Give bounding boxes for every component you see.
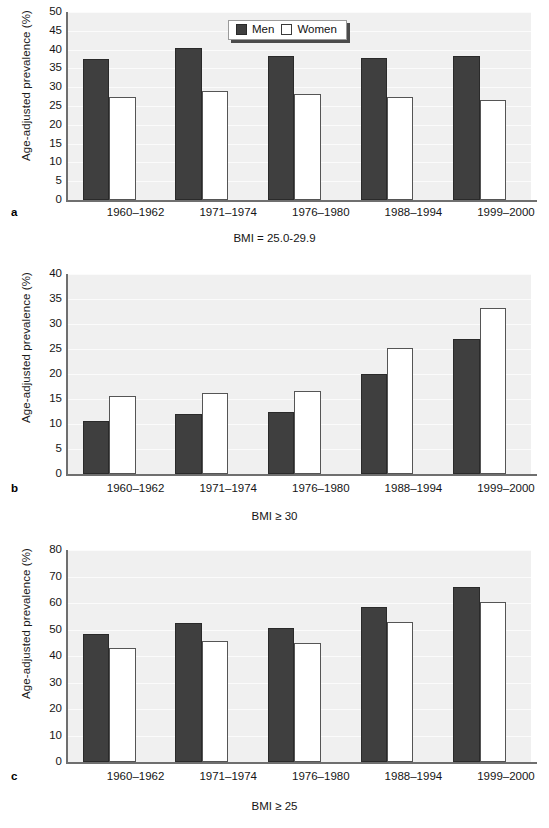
y-tick-label: 45 bbox=[49, 25, 62, 37]
legend-label-women: Women bbox=[297, 24, 336, 36]
gridline bbox=[68, 299, 531, 300]
y-tick-label: 30 bbox=[49, 677, 62, 689]
bar-women bbox=[202, 641, 228, 762]
bar-men bbox=[175, 414, 201, 475]
bar-women bbox=[480, 308, 506, 475]
bar-women bbox=[202, 393, 228, 475]
bar-men bbox=[83, 59, 109, 200]
y-tick-label: 40 bbox=[49, 44, 62, 56]
x-axis-line-b bbox=[66, 474, 537, 476]
x-tick-label: 1960–1962 bbox=[107, 770, 165, 782]
panel-letter-a: a bbox=[11, 206, 17, 218]
plot-area-a bbox=[68, 12, 531, 200]
bar-men bbox=[361, 374, 387, 474]
x-tick-label: 1971–1974 bbox=[199, 482, 257, 494]
x-axis-line-c bbox=[66, 762, 537, 764]
y-tick-label: 80 bbox=[49, 544, 62, 556]
plot-area-b bbox=[68, 274, 531, 474]
y-tick-label: 5 bbox=[56, 443, 62, 455]
bar-men bbox=[268, 56, 294, 200]
legend-swatch-women-icon bbox=[281, 24, 292, 35]
gridline bbox=[68, 50, 531, 51]
panel-letter-c: c bbox=[11, 770, 17, 782]
bar-men bbox=[175, 623, 201, 762]
panel-caption-c: BMI ≥ 25 bbox=[0, 800, 549, 812]
bar-men bbox=[83, 634, 109, 762]
gridline bbox=[68, 550, 531, 551]
y-tick-label: 50 bbox=[49, 6, 62, 18]
x-tick-label: 1999–2000 bbox=[477, 206, 535, 218]
x-tick-label: 1976–1980 bbox=[292, 770, 350, 782]
bar-women bbox=[109, 396, 135, 475]
legend-item-men: Men bbox=[236, 24, 274, 36]
y-tick-label: 60 bbox=[49, 597, 62, 609]
x-tick-label: 1988–1994 bbox=[385, 770, 443, 782]
y-tick-label: 0 bbox=[56, 194, 62, 206]
y-tick-labels-b: 0510152025303540 bbox=[22, 274, 62, 474]
bar-women bbox=[294, 643, 320, 763]
bar-women bbox=[387, 97, 413, 200]
x-tick-label: 1976–1980 bbox=[292, 482, 350, 494]
y-tick-label: 40 bbox=[49, 650, 62, 662]
bar-men bbox=[361, 607, 387, 762]
y-tick-label: 10 bbox=[49, 730, 62, 742]
figure-page: Age-adjusted prevalence (%) 051015202530… bbox=[0, 0, 549, 828]
y-tick-label: 0 bbox=[56, 468, 62, 480]
chart-panel-a: Age-adjusted prevalence (%) 051015202530… bbox=[0, 0, 549, 256]
bar-men bbox=[361, 58, 387, 201]
y-tick-label: 30 bbox=[49, 81, 62, 93]
y-tick-label: 35 bbox=[49, 293, 62, 305]
y-tick-label: 10 bbox=[49, 157, 62, 169]
bar-men bbox=[453, 339, 479, 475]
y-tick-label: 50 bbox=[49, 624, 62, 636]
gridline bbox=[68, 577, 531, 578]
y-tick-labels-c: 01020304050607080 bbox=[22, 550, 62, 762]
legend-swatch-men-icon bbox=[236, 24, 247, 35]
panel-caption-b: BMI ≥ 30 bbox=[0, 510, 549, 522]
bar-men bbox=[268, 628, 294, 762]
y-tick-label: 70 bbox=[49, 571, 62, 583]
bar-women bbox=[202, 91, 228, 200]
y-tick-label: 5 bbox=[56, 175, 62, 187]
bar-men bbox=[268, 412, 294, 475]
bar-men bbox=[453, 56, 479, 200]
panel-caption-a: BMI = 25.0-29.9 bbox=[0, 232, 549, 244]
bar-men bbox=[83, 421, 109, 475]
bar-women bbox=[480, 602, 506, 762]
gridline bbox=[68, 324, 531, 325]
y-tick-label: 40 bbox=[49, 268, 62, 280]
y-tick-label: 30 bbox=[49, 318, 62, 330]
legend-item-women: Women bbox=[281, 24, 336, 36]
plot-area-c bbox=[68, 550, 531, 762]
y-tick-label: 0 bbox=[56, 756, 62, 768]
x-axis-line-a bbox=[66, 200, 537, 202]
bar-women bbox=[387, 622, 413, 762]
x-tick-label: 1988–1994 bbox=[385, 482, 443, 494]
y-tick-label: 15 bbox=[49, 138, 62, 150]
y-tick-label: 25 bbox=[49, 343, 62, 355]
x-tick-label: 1971–1974 bbox=[199, 770, 257, 782]
chart-panel-b: Age-adjusted prevalence (%) 051015202530… bbox=[0, 258, 549, 534]
x-tick-label: 1971–1974 bbox=[199, 206, 257, 218]
x-tick-label: 1960–1962 bbox=[107, 482, 165, 494]
bar-women bbox=[387, 348, 413, 474]
y-tick-label: 20 bbox=[49, 703, 62, 715]
y-tick-label: 10 bbox=[49, 418, 62, 430]
panel-letter-b: b bbox=[11, 482, 18, 494]
bar-women bbox=[109, 97, 135, 200]
x-tick-label: 1999–2000 bbox=[477, 770, 535, 782]
y-tick-label: 35 bbox=[49, 63, 62, 75]
x-tick-label: 1960–1962 bbox=[107, 206, 165, 218]
y-tick-labels-a: 05101520253035404550 bbox=[22, 12, 62, 200]
bar-women bbox=[109, 648, 135, 762]
gridline bbox=[68, 12, 531, 13]
bar-men bbox=[453, 587, 479, 762]
chart-panel-c: Age-adjusted prevalence (%) 010203040506… bbox=[0, 534, 549, 828]
bar-women bbox=[294, 391, 320, 474]
y-tick-label: 20 bbox=[49, 368, 62, 380]
bar-women bbox=[480, 100, 506, 200]
gridline bbox=[68, 274, 531, 275]
x-tick-label: 1988–1994 bbox=[385, 206, 443, 218]
chart-legend: Men Women bbox=[228, 20, 347, 40]
x-tick-label: 1999–2000 bbox=[477, 482, 535, 494]
